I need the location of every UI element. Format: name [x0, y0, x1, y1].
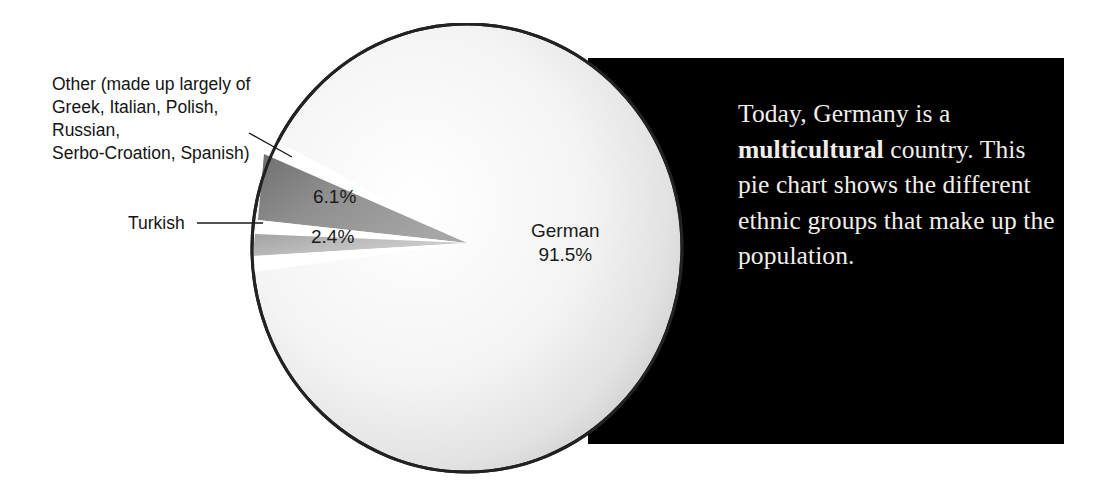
label-other-value: 6.1%: [313, 186, 356, 208]
pie-chart: [250, 23, 684, 475]
label-turkish-value: 2.4%: [311, 226, 354, 248]
caption-text-bold: multicultural: [738, 135, 884, 164]
label-turkish: Turkish: [128, 212, 185, 235]
label-german: German 91.5%: [531, 219, 600, 267]
caption-text-before-bold: Today, Germany is a: [738, 99, 950, 128]
label-other-line3: Serbo-Croation, Spanish): [52, 142, 287, 165]
label-other: Other (made up largely of Greek, Italian…: [52, 73, 287, 165]
pie-chart-svg: [250, 23, 684, 475]
pie-chart-figure: Today, Germany is a multicultural countr…: [0, 0, 1105, 481]
label-german-name: German: [531, 219, 600, 243]
label-german-value: 91.5%: [531, 243, 600, 267]
label-other-line1: Other (made up largely of: [52, 73, 287, 96]
caption-text: Today, Germany is a multicultural countr…: [738, 96, 1056, 274]
label-other-line2: Greek, Italian, Polish, Russian,: [52, 96, 287, 142]
